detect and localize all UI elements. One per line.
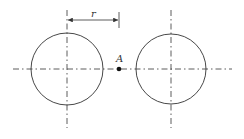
point-label-a: A xyxy=(115,53,123,64)
point-a xyxy=(117,67,122,72)
two-circles-diagram: r A xyxy=(0,0,244,139)
dimension-label-r: r xyxy=(91,8,97,19)
